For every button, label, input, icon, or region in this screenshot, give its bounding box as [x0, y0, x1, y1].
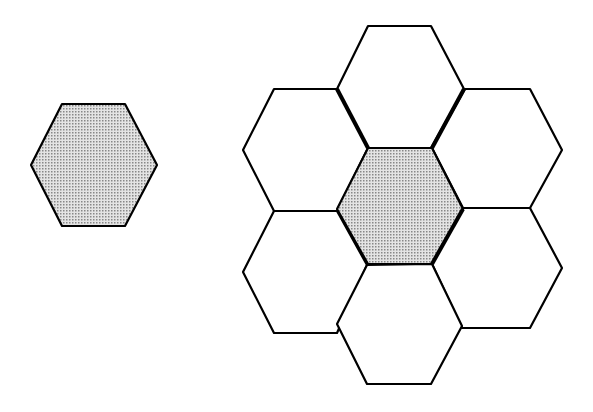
single-hexagon — [31, 104, 157, 226]
hexagon-diagram — [0, 0, 593, 412]
hexagon-cluster — [243, 26, 562, 384]
single-hexagon-shape — [31, 104, 157, 226]
